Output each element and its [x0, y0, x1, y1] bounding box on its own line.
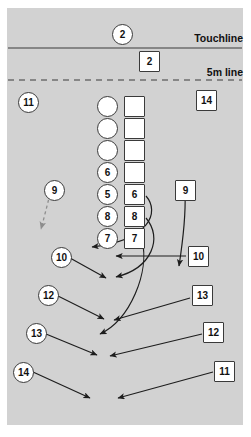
- marker-lineout-circle-3[interactable]: [97, 140, 118, 161]
- marker-wing-square-11[interactable]: 11: [214, 361, 235, 382]
- five-metre-line-label: 5m line: [207, 66, 243, 78]
- marker-lineout-circle-6[interactable]: 6: [97, 162, 118, 183]
- marker-lineout-circle-8[interactable]: 8: [97, 206, 118, 227]
- marker-outside-centre-square-13[interactable]: 13: [192, 285, 213, 306]
- marker-wing-circle-14[interactable]: 14: [13, 362, 34, 383]
- marker-lineout-square-1[interactable]: [124, 96, 145, 117]
- marker-thrower-circle-2[interactable]: 2: [112, 24, 133, 45]
- arrow-defensive-13-in: [114, 298, 190, 320]
- arrow-defensive-scrumhalf-run: [179, 194, 185, 266]
- marker-thrower-square-2[interactable]: 2: [139, 51, 160, 72]
- marker-lineout-circle-2[interactable]: [97, 118, 118, 139]
- arrow-flyhalf-attack: [70, 258, 106, 278]
- arrow-forward-7-sweep: [100, 240, 144, 334]
- marker-inside-centre-square-12[interactable]: 12: [203, 322, 224, 343]
- marker-left-wing-circle-11[interactable]: 11: [18, 92, 39, 113]
- marker-scrumhalf-circle-9[interactable]: 9: [44, 180, 65, 201]
- marker-lineout-square-7[interactable]: 7: [124, 228, 145, 249]
- marker-flyhalf-square-10[interactable]: 10: [188, 246, 209, 267]
- arrow-defensive-12-in: [110, 334, 202, 356]
- marker-scrumhalf-square-9[interactable]: 9: [175, 180, 196, 201]
- marker-outside-centre-circle-13[interactable]: 13: [26, 323, 47, 344]
- marker-lineout-circle-5[interactable]: 5: [97, 184, 118, 205]
- marker-lineout-circle-1[interactable]: [97, 96, 118, 117]
- marker-right-wing-square-14[interactable]: 14: [196, 90, 217, 111]
- arrow-outside-centre-attack: [46, 334, 97, 355]
- marker-lineout-square-3[interactable]: [124, 140, 145, 161]
- lineout-diagram: Touchline 5m line 2 2 11 14 6 5 8 7 6 8 …: [0, 0, 251, 437]
- marker-flyhalf-circle-10[interactable]: 10: [51, 247, 72, 268]
- arrow-inside-centre-attack: [58, 296, 104, 319]
- marker-inside-centre-circle-12[interactable]: 12: [38, 285, 59, 306]
- marker-lineout-circle-7[interactable]: 7: [97, 228, 118, 249]
- arrow-defensive-11-in: [118, 372, 213, 398]
- marker-lineout-square-8[interactable]: 8: [124, 206, 145, 227]
- marker-lineout-square-6[interactable]: 6: [124, 184, 145, 205]
- marker-lineout-square-4[interactable]: [124, 162, 145, 183]
- arrow-wing-attack: [33, 372, 90, 398]
- touchline-label: Touchline: [194, 32, 243, 44]
- marker-lineout-square-2[interactable]: [124, 118, 145, 139]
